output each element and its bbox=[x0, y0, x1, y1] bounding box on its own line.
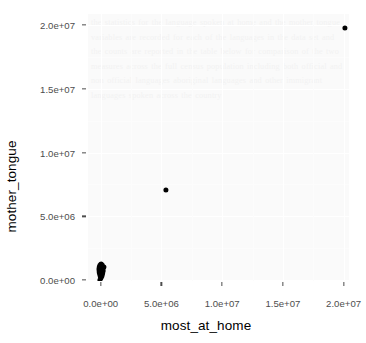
y-tick-label-1e7: 1.0e+07 bbox=[15, 147, 75, 158]
gridline-y-2e7 bbox=[88, 25, 349, 26]
gridline-minor-y-2.5e6 bbox=[88, 248, 349, 249]
x-tick-label-5e6: 5.0e+06 bbox=[126, 298, 196, 309]
x-tick-mark-5e6 bbox=[161, 282, 162, 286]
y-tick-mark-2e7 bbox=[82, 24, 86, 25]
gridline-minor-y-1.25e7 bbox=[88, 121, 349, 122]
y-tick-label-5e6: 5.0e+06 bbox=[15, 211, 75, 222]
y-tick-mark-0 bbox=[82, 279, 86, 280]
data-point bbox=[102, 264, 107, 269]
y-tick-label-1.5e7: 1.5e+07 bbox=[15, 83, 75, 94]
gridline-minor-y-7.5e6 bbox=[88, 184, 349, 185]
gridline-minor-x-2.5e6 bbox=[131, 14, 132, 281]
x-tick-mark-1.5e7 bbox=[282, 282, 283, 286]
x-tick-label-1.5e7: 1.5e+07 bbox=[248, 298, 318, 309]
y-tick-label-0: 0.0e+00 bbox=[15, 275, 75, 286]
y-axis-title-text: mother_tongue bbox=[4, 140, 19, 232]
y-axis-title: mother_tongue bbox=[0, 0, 22, 343]
y-tick-mark-5e6 bbox=[82, 216, 86, 217]
gridline-x-2e7 bbox=[344, 14, 345, 281]
gridline-x-1.5e7 bbox=[283, 14, 284, 281]
data-point-outlier-mid bbox=[164, 187, 169, 192]
gridline-y-5e6 bbox=[88, 216, 349, 217]
gridline-minor-x-7.5e6 bbox=[192, 14, 193, 281]
gridline-x-0 bbox=[101, 14, 102, 281]
x-tick-mark-0 bbox=[100, 282, 101, 286]
x-tick-label-2e7: 2.0e+07 bbox=[309, 298, 366, 309]
gridline-minor-y-1.75e7 bbox=[88, 57, 349, 58]
data-point-outlier-top bbox=[342, 25, 347, 30]
x-axis-title: most_at_home bbox=[78, 318, 334, 333]
background-watermark-text: the statistics for the language spoken a… bbox=[88, 14, 349, 281]
x-tick-mark-1e7 bbox=[222, 282, 223, 286]
x-tick-label-0: 0.0e+00 bbox=[66, 298, 136, 309]
y-tick-label-2e7: 2.0e+07 bbox=[15, 20, 75, 31]
gridline-x-1e7 bbox=[222, 14, 223, 281]
gridline-minor-x-1.25e7 bbox=[253, 14, 254, 281]
y-tick-mark-1e7 bbox=[82, 152, 86, 153]
gridline-minor-x-1.75e7 bbox=[313, 14, 314, 281]
gridline-x-5e6 bbox=[161, 14, 162, 281]
plot-panel: the statistics for the language spoken a… bbox=[88, 14, 349, 281]
x-tick-label-1e7: 1.0e+07 bbox=[187, 298, 257, 309]
x-tick-mark-2e7 bbox=[343, 282, 344, 286]
gridline-y-1.5e7 bbox=[88, 89, 349, 90]
gridline-y-0 bbox=[88, 280, 349, 281]
gridline-y-1e7 bbox=[88, 153, 349, 154]
y-tick-mark-1.5e7 bbox=[82, 88, 86, 89]
